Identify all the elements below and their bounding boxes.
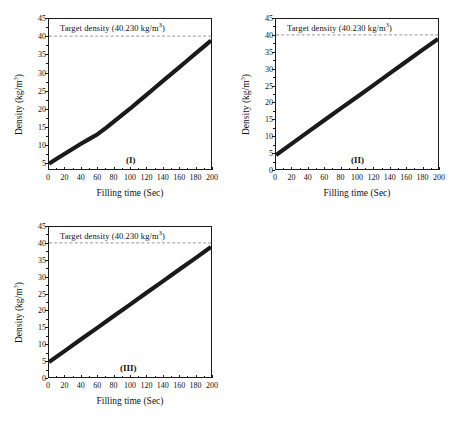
y-tick-mark	[45, 18, 49, 19]
y-tick-label: 10	[24, 340, 46, 349]
chart-panel-3: Density (kg/m3) 051015202530354045 Targe…	[0, 208, 227, 424]
y-tick-label: 5	[24, 159, 46, 168]
y-tick-mark	[45, 73, 49, 74]
x-tick-mark-minor	[171, 168, 172, 170]
y-tick-label: 25	[24, 289, 46, 298]
y-tick-mark	[272, 153, 276, 154]
y-tick-mark	[272, 35, 276, 36]
y-tick-mark-minor	[273, 43, 275, 44]
y-tick-mark-minor	[46, 154, 48, 155]
x-tick-mark-minor	[332, 168, 333, 170]
x-tick-mark	[341, 167, 342, 171]
y-tick-mark	[45, 294, 49, 295]
x-tick-mark	[130, 167, 131, 171]
x-tick-mark-minor	[204, 376, 205, 378]
x-tick-mark	[97, 167, 98, 171]
y-tick-mark-minor	[46, 370, 48, 371]
x-tick-mark	[308, 167, 309, 171]
plot-area-3	[49, 227, 211, 377]
x-tick-mark-minor	[89, 168, 90, 170]
x-tick-label: 200	[428, 173, 450, 182]
data-line	[49, 41, 211, 164]
chart-panel-1: Density (kg/m3) 51015202530354045 Target…	[0, 0, 227, 210]
x-tick-labels-1: 020406080100120140160180200	[48, 170, 212, 186]
y-tick-mark	[45, 378, 49, 379]
y-tick-mark	[272, 86, 276, 87]
y-tick-mark	[45, 243, 49, 244]
x-tick-mark-minor	[155, 168, 156, 170]
x-tick-mark-minor	[138, 376, 139, 378]
y-tick-label: 45	[24, 222, 46, 231]
y-tick-mark	[45, 109, 49, 110]
y-tick-label: 30	[24, 272, 46, 281]
y-tick-mark-minor	[273, 77, 275, 78]
y-tick-label: 10	[251, 132, 273, 141]
y-tick-mark-minor	[46, 336, 48, 337]
y-tick-label: 15	[251, 115, 273, 124]
y-tick-mark	[45, 145, 49, 146]
x-tick-mark	[196, 375, 197, 379]
y-tick-mark-minor	[46, 319, 48, 320]
x-tick-mark	[146, 375, 147, 379]
x-tick-mark-minor	[171, 376, 172, 378]
x-tick-mark-minor	[89, 376, 90, 378]
y-tick-mark-minor	[46, 100, 48, 101]
y-tick-mark-minor	[46, 63, 48, 64]
x-tick-labels-3: 020406080100120140160180200	[48, 378, 212, 394]
y-tick-mark-minor	[273, 26, 275, 27]
x-tick-mark-minor	[204, 168, 205, 170]
y-tick-label: 30	[251, 64, 273, 73]
y-tick-mark	[45, 344, 49, 345]
y-tick-mark-minor	[273, 111, 275, 112]
plot-frame-3	[48, 226, 212, 378]
x-tick-label: 200	[201, 381, 223, 390]
y-tick-mark	[272, 170, 276, 171]
y-tick-labels-1: 51015202530354045	[22, 18, 46, 170]
y-tick-label: 45	[24, 14, 46, 23]
x-tick-mark	[81, 167, 82, 171]
x-axis-title-3: Filling time (Sec)	[48, 396, 212, 406]
plot-svg-2	[276, 19, 438, 169]
y-tick-label: 35	[24, 255, 46, 264]
y-tick-mark	[45, 54, 49, 55]
chart-panel-2: Density (kg/m3) 051015202530354045 Targe…	[227, 0, 454, 210]
y-tick-mark	[45, 36, 49, 37]
x-tick-mark	[163, 375, 164, 379]
y-tick-label: 35	[24, 50, 46, 59]
y-tick-mark	[45, 310, 49, 311]
x-tick-mark	[64, 167, 65, 171]
y-tick-mark	[272, 52, 276, 53]
x-tick-mark	[439, 167, 440, 171]
y-tick-mark-minor	[46, 118, 48, 119]
x-tick-mark-minor	[316, 168, 317, 170]
x-tick-mark	[179, 375, 180, 379]
y-tick-mark-minor	[46, 27, 48, 28]
data-line	[276, 39, 438, 155]
x-tick-mark	[212, 167, 213, 171]
x-tick-mark	[324, 167, 325, 171]
y-tick-mark	[45, 327, 49, 328]
plot-area-1	[49, 19, 211, 169]
y-tick-mark-minor	[273, 94, 275, 95]
x-tick-mark	[97, 375, 98, 379]
x-tick-mark-minor	[73, 168, 74, 170]
y-tick-label: 15	[24, 123, 46, 132]
y-tick-label: 20	[24, 306, 46, 315]
y-tick-mark	[45, 127, 49, 128]
target-density-annotation-1: Target density (40.230 kg/m3)	[60, 21, 165, 33]
y-tick-mark	[45, 361, 49, 362]
x-tick-mark	[179, 167, 180, 171]
x-tick-mark-minor	[431, 168, 432, 170]
x-tick-mark-minor	[122, 376, 123, 378]
y-tick-labels-2: 051015202530354045	[249, 18, 273, 170]
plot-frame-1	[48, 18, 212, 170]
y-tick-mark	[45, 163, 49, 164]
x-tick-mark-minor	[187, 168, 188, 170]
x-tick-mark	[291, 167, 292, 171]
y-tick-mark	[272, 69, 276, 70]
figure-three-density-plots: Density (kg/m3) 51015202530354045 Target…	[0, 0, 454, 424]
x-tick-mark-minor	[283, 168, 284, 170]
y-tick-label: 20	[251, 98, 273, 107]
y-tick-label: 10	[24, 141, 46, 150]
panel-label-3: (III)	[120, 363, 137, 373]
